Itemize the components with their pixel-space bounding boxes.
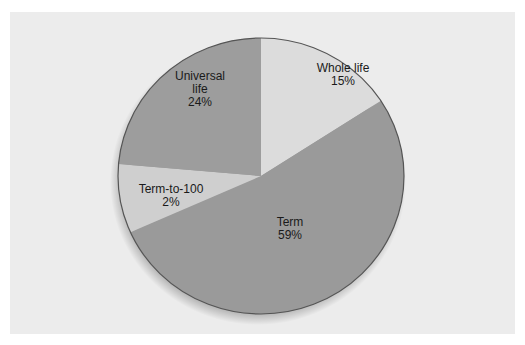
slice-label-whole-life: Whole life 15% — [317, 62, 370, 88]
slice-percent: 2% — [139, 196, 204, 209]
slice-percent: 59% — [277, 229, 304, 242]
slice-label-universal-life: Universal life 24% — [175, 70, 225, 109]
slice-percent: 24% — [175, 96, 225, 109]
slice-label-term: Term 59% — [277, 216, 304, 242]
slice-percent: 15% — [317, 75, 370, 88]
slice-label-term-to-100: Term-to-100 2% — [139, 183, 204, 209]
pie-chart — [0, 0, 525, 345]
